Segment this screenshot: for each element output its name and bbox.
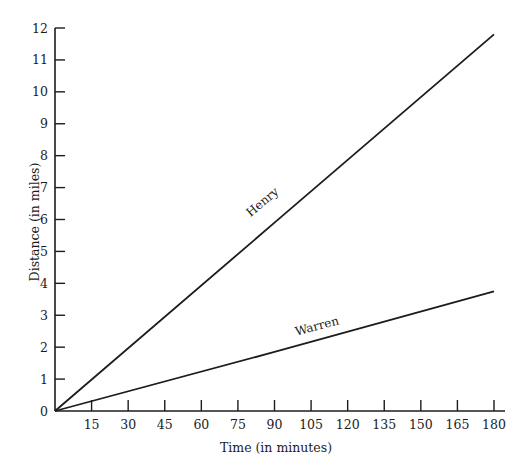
x-tick-label: 165: [445, 417, 469, 432]
series-lines: HenryWarren: [55, 34, 494, 411]
x-tick-label: 45: [157, 417, 173, 432]
x-tick-label: 75: [230, 417, 246, 432]
series-label-henry: Henry: [243, 184, 281, 219]
x-tick-label: 15: [84, 417, 100, 432]
y-tick-label: 9: [40, 116, 48, 131]
x-tick-label: 135: [372, 417, 396, 432]
x-tick-label: 180: [482, 417, 506, 432]
y-tick-label: 0: [40, 404, 48, 419]
x-tick-label: 105: [299, 417, 323, 432]
y-tick-label: 3: [40, 308, 48, 323]
x-tick-label: 60: [193, 417, 209, 432]
x-axis: 153045607590105120135150165180: [55, 400, 506, 432]
x-tick-label: 120: [336, 417, 360, 432]
y-tick-label: 12: [32, 21, 48, 36]
y-axis-title: Distance (in miles): [27, 163, 42, 282]
y-tick-label: 8: [40, 148, 48, 163]
y-tick-label: 2: [40, 340, 48, 355]
x-tick-label: 150: [409, 417, 433, 432]
y-tick-label: 11: [32, 52, 48, 67]
series-line-warren: [55, 291, 494, 411]
x-axis-title: Time (in minutes): [220, 440, 332, 455]
y-tick-label: 10: [32, 84, 48, 99]
distance-time-chart: 0123456789101112 15304560759010512013515…: [0, 0, 529, 475]
y-tick-label: 1: [40, 372, 48, 387]
series-line-henry: [55, 34, 494, 411]
x-tick-label: 30: [120, 417, 136, 432]
x-tick-label: 90: [267, 417, 283, 432]
